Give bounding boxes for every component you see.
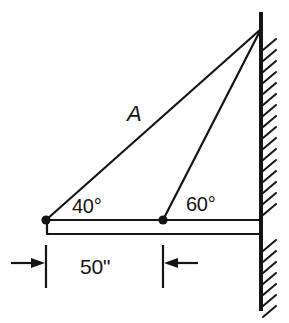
horizontal-beam <box>46 220 261 234</box>
angle-label-right: 60° <box>186 194 215 214</box>
member-b-line <box>163 29 261 220</box>
wall-hatching-upper <box>263 39 276 215</box>
member-label-a: A <box>127 103 142 125</box>
member-a-line <box>46 29 261 220</box>
pin-joint-middle <box>158 215 167 224</box>
pin-joint-left <box>41 215 50 224</box>
wall-hatching-lower <box>263 240 276 317</box>
wall-group <box>261 12 276 317</box>
angle-label-left: 40° <box>72 196 101 216</box>
dimension-label-50in: 50" <box>80 256 110 277</box>
diagram-vector-layer <box>0 0 289 323</box>
dimension-arrow-right-head <box>164 258 178 268</box>
dimension-arrow-left-head <box>31 258 45 268</box>
engineering-diagram-canvas: 40° 60° A 50" <box>0 0 289 323</box>
